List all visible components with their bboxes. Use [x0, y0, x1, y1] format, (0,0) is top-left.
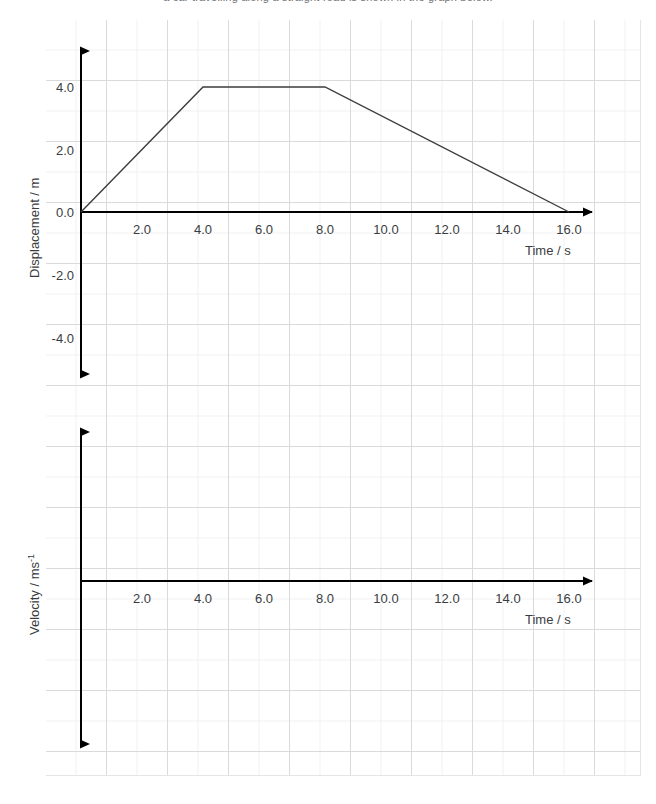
- velocity-xtick-6: 6.0: [255, 591, 273, 606]
- displacement-xtick-4: 4.0: [194, 222, 212, 237]
- velocity-xtick-8: 8.0: [316, 591, 334, 606]
- velocity-x-axis-title: Time / s: [525, 612, 571, 627]
- velocity-xtick-10: 10.0: [373, 591, 398, 606]
- velocity-xtick-14: 14.0: [495, 591, 520, 606]
- displacement-xtick-12: 12.0: [434, 222, 459, 237]
- displacement-ytick-minus4: -4.0: [30, 331, 74, 346]
- displacement-xtick-8: 8.0: [316, 222, 334, 237]
- displacement-ytick-2: 2.0: [36, 143, 74, 158]
- graphs-vector-layer: [0, 0, 656, 804]
- velocity-y-axis-title-text: Velocity / ms: [27, 562, 42, 635]
- displacement-time-graph: [81, 51, 592, 374]
- displacement-xtick-2: 2.0: [133, 222, 151, 237]
- displacement-xtick-16: 16.0: [556, 222, 581, 237]
- velocity-y-axis-title-exponent: -1: [26, 554, 36, 562]
- displacement-xtick-14: 14.0: [495, 222, 520, 237]
- velocity-xtick-12: 12.0: [434, 591, 459, 606]
- velocity-time-graph: [81, 432, 592, 744]
- worksheet-page: a car travelling along a straight road i…: [0, 0, 656, 804]
- displacement-xtick-10: 10.0: [373, 222, 398, 237]
- displacement-curve: [81, 87, 569, 212]
- displacement-xtick-6: 6.0: [255, 222, 273, 237]
- velocity-xtick-2: 2.0: [133, 591, 151, 606]
- velocity-xtick-4: 4.0: [194, 591, 212, 606]
- displacement-y-axis-title: Displacement / m: [27, 178, 42, 278]
- velocity-y-axis-title: Velocity / ms-1: [27, 554, 42, 635]
- displacement-x-axis-title: Time / s: [525, 243, 571, 258]
- velocity-xtick-16: 16.0: [556, 591, 581, 606]
- displacement-ytick-4: 4.0: [36, 80, 74, 95]
